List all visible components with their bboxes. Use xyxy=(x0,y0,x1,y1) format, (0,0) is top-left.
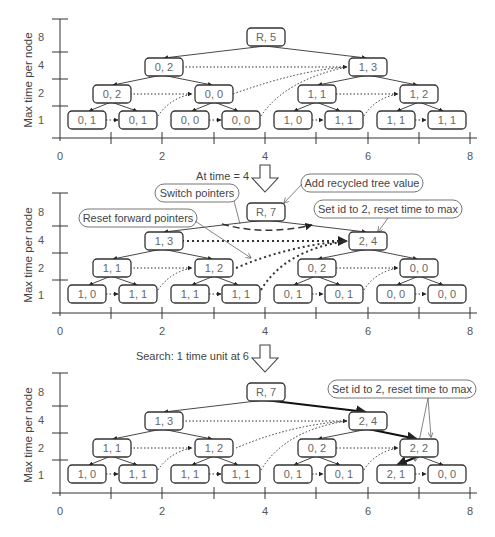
step-caption: Search: 1 time unit at 6 xyxy=(136,350,249,362)
svg-text:1, 1: 1, 1 xyxy=(181,468,199,480)
tree-node: 0, 2 xyxy=(298,439,336,457)
svg-text:0, 0: 0, 0 xyxy=(387,288,405,300)
panel-3: Max time per node 8 4 2 1 0 2 4 6 8 xyxy=(22,373,477,517)
svg-text:1, 1: 1, 1 xyxy=(387,114,405,126)
x-tick-2: 2 xyxy=(159,150,165,162)
tree-node: 1, 3 xyxy=(349,58,387,76)
y-tick-4: 4 xyxy=(38,414,44,426)
x-tick-0: 0 xyxy=(57,505,63,517)
svg-text:0, 1: 0, 1 xyxy=(335,288,353,300)
svg-text:1, 1: 1, 1 xyxy=(181,288,199,300)
y-tick-2: 2 xyxy=(38,262,44,274)
tree-node: 1, 1 xyxy=(298,85,336,103)
tree-leaf: 2, 1 xyxy=(377,465,415,483)
tree-node: 1, 1 xyxy=(93,439,131,457)
search-path xyxy=(265,400,419,465)
tree-node-root: R, 7 xyxy=(247,203,285,221)
x-tick-0: 0 xyxy=(57,325,63,337)
svg-text:1, 1: 1, 1 xyxy=(232,288,250,300)
svg-text:Reset forward pointers: Reset forward pointers xyxy=(83,212,194,224)
svg-text:1, 2: 1, 2 xyxy=(410,88,428,100)
svg-text:0, 0: 0, 0 xyxy=(438,288,456,300)
tree-node: 1, 3 xyxy=(145,412,183,430)
tree-leaf: 0, 0 xyxy=(428,465,466,483)
callout-set-id: Set id to 2, reset time to max xyxy=(314,200,462,232)
svg-text:0, 0: 0, 0 xyxy=(438,468,456,480)
svg-text:1, 3: 1, 3 xyxy=(359,61,377,73)
svg-text:R, 7: R, 7 xyxy=(256,206,276,218)
y-axis-title: Max time per node xyxy=(22,207,34,302)
svg-text:1, 1: 1, 1 xyxy=(232,468,250,480)
tree-leaf: 0, 0 xyxy=(171,111,209,129)
svg-text:2, 4: 2, 4 xyxy=(359,415,377,427)
tree-leaf: 1, 1 xyxy=(171,285,209,303)
tree-node-root: R, 7 xyxy=(247,383,285,401)
x-tick-4: 4 xyxy=(262,505,268,517)
svg-text:1, 1: 1, 1 xyxy=(129,288,147,300)
panel-2: Max time per node 8 4 2 1 0 2 4 6 8 xyxy=(22,174,477,337)
tree-leaf: 0, 1 xyxy=(274,285,312,303)
svg-text:1, 1: 1, 1 xyxy=(438,114,456,126)
tree-edges xyxy=(89,46,443,111)
tree-leaf: 1, 1 xyxy=(428,111,466,129)
tree-node: 2, 4 xyxy=(349,412,387,430)
tree-node: 1, 2 xyxy=(195,439,233,457)
panel-1: Max time per node 8 4 2 1 0 2 4 6 8 xyxy=(22,19,477,162)
tree-leaf: 1, 1 xyxy=(119,285,157,303)
switch-pointer-arc xyxy=(222,224,312,230)
y-tick-1: 1 xyxy=(38,469,44,481)
x-tick-8: 8 xyxy=(467,505,473,517)
svg-text:0, 1: 0, 1 xyxy=(335,468,353,480)
tree-leaf: 0, 0 xyxy=(428,285,466,303)
y-tick-8: 8 xyxy=(38,31,44,43)
svg-text:2, 1: 2, 1 xyxy=(387,468,405,480)
svg-text:1, 0: 1, 0 xyxy=(284,114,302,126)
svg-text:1, 3: 1, 3 xyxy=(155,415,173,427)
svg-text:Add recycled tree value: Add recycled tree value xyxy=(305,177,420,189)
svg-text:1, 0: 1, 0 xyxy=(78,468,96,480)
down-arrow-icon xyxy=(252,345,278,372)
tree-leaf: 1, 0 xyxy=(68,465,106,483)
tree-leaf: 1, 1 xyxy=(377,111,415,129)
y-tick-8: 8 xyxy=(38,386,44,398)
svg-text:0, 0: 0, 0 xyxy=(232,114,250,126)
tree-node: 0, 0 xyxy=(400,259,438,277)
tree-node: 2, 2 xyxy=(400,439,438,457)
tree-node: 0, 2 xyxy=(145,58,183,76)
tree-node: 1, 2 xyxy=(195,259,233,277)
down-arrow-icon xyxy=(252,165,278,192)
svg-text:R, 5: R, 5 xyxy=(256,31,276,43)
tree-node: 1, 3 xyxy=(145,232,183,250)
y-tick-1: 1 xyxy=(38,289,44,301)
tree-leaf: 1, 0 xyxy=(274,111,312,129)
svg-text:0, 2: 0, 2 xyxy=(103,88,121,100)
svg-text:0, 1: 0, 1 xyxy=(78,114,96,126)
y-tick-4: 4 xyxy=(38,59,44,71)
x-tick-4: 4 xyxy=(262,150,268,162)
svg-text:0, 0: 0, 0 xyxy=(205,88,223,100)
svg-text:1, 0: 1, 0 xyxy=(78,288,96,300)
y-tick-2: 2 xyxy=(38,442,44,454)
diagram-canvas: Max time per node 8 4 2 1 0 2 4 6 8 xyxy=(0,0,495,537)
x-tick-2: 2 xyxy=(159,505,165,517)
svg-text:1, 1: 1, 1 xyxy=(103,262,121,274)
tree-leaf: 0, 1 xyxy=(68,111,106,129)
tree-leaf: 0, 1 xyxy=(325,285,363,303)
svg-text:0, 2: 0, 2 xyxy=(155,61,173,73)
svg-text:Set id to 2, reset time to max: Set id to 2, reset time to max xyxy=(318,203,459,215)
svg-text:R, 7: R, 7 xyxy=(256,386,276,398)
svg-text:0, 0: 0, 0 xyxy=(410,262,428,274)
tree-leaf: 1, 1 xyxy=(171,465,209,483)
svg-text:Switch pointers: Switch pointers xyxy=(160,187,235,199)
svg-text:1, 1: 1, 1 xyxy=(335,114,353,126)
y-axis-title: Max time per node xyxy=(22,387,34,482)
tree-leaf: 1, 1 xyxy=(222,465,260,483)
tree-node-root: R, 5 xyxy=(247,28,285,46)
tree-node: 0, 0 xyxy=(195,85,233,103)
tree-node: 0, 2 xyxy=(298,259,336,277)
x-tick-0: 0 xyxy=(57,150,63,162)
tree-leaf: 1, 1 xyxy=(222,285,260,303)
tree-node: 1, 2 xyxy=(400,85,438,103)
svg-text:0, 0: 0, 0 xyxy=(181,114,199,126)
tree-leaf: 1, 0 xyxy=(68,285,106,303)
